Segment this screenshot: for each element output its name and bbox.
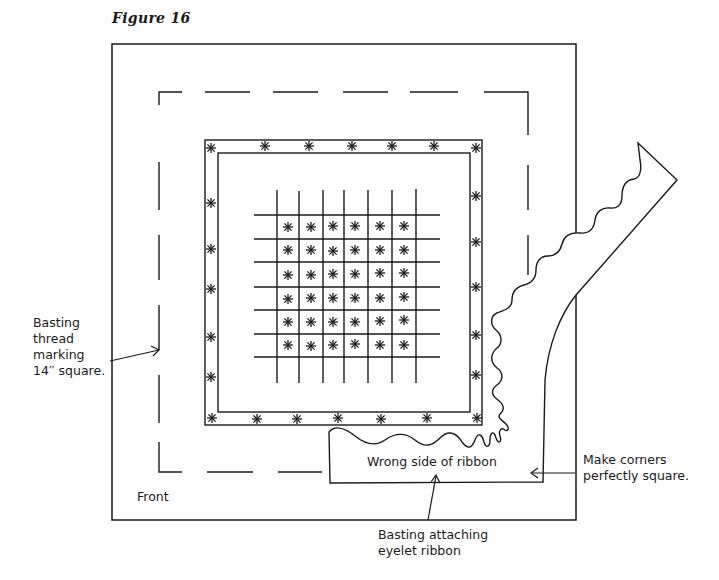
- label-line: Front: [137, 489, 169, 505]
- label-line: Make corners: [583, 452, 689, 468]
- quilt-block-diagram: [0, 0, 719, 580]
- grid-stitch-stars: [283, 221, 409, 351]
- label-line: 14′′ square.: [33, 363, 105, 379]
- basting-thread-label: Basting thread marking 14′′ square.: [33, 315, 105, 379]
- wrong-side-of-ribbon-label: Wrong side of ribbon: [367, 454, 497, 470]
- label-line: Wrong side of ribbon: [367, 454, 497, 470]
- label-line: eyelet ribbon: [378, 543, 488, 559]
- label-line: Basting attaching: [378, 527, 488, 543]
- label-line: marking: [33, 347, 105, 363]
- basting-attaching-label: Basting attaching eyelet ribbon: [378, 527, 488, 559]
- leader-basting-thread: [110, 346, 159, 361]
- cross-stitch-grid: [254, 189, 440, 383]
- front-label: Front: [137, 489, 169, 505]
- loose-ribbon-end: [329, 143, 677, 483]
- label-line: Basting: [33, 315, 105, 331]
- label-line: thread: [33, 331, 105, 347]
- label-line: perfectly square.: [583, 468, 689, 484]
- make-corners-label: Make corners perfectly square.: [583, 452, 689, 484]
